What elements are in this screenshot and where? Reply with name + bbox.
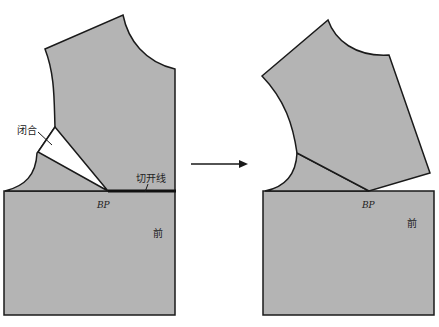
label-front-left: 前	[153, 227, 163, 239]
left-lower-bodice	[4, 191, 175, 315]
right-lower-bodice	[263, 191, 434, 315]
label-bp-left: BP	[96, 200, 111, 210]
left-pattern: 闭合 切开线 BP 前	[4, 15, 176, 315]
label-front-right: 前	[407, 217, 417, 229]
right-rotated-upper-bodice	[262, 20, 430, 191]
arrow-right-icon	[191, 160, 248, 168]
label-closed: 闭合	[17, 124, 37, 136]
diagram-canvas: 闭合 切开线 BP 前 BP 前	[0, 0, 439, 327]
pattern-diagram: 闭合 切开线 BP 前 BP 前	[0, 0, 439, 327]
label-bp-right: BP	[361, 200, 376, 210]
label-cut-line: 切开线	[136, 172, 166, 184]
right-pattern: BP 前	[262, 20, 434, 315]
left-upper-bodice	[5, 15, 175, 191]
